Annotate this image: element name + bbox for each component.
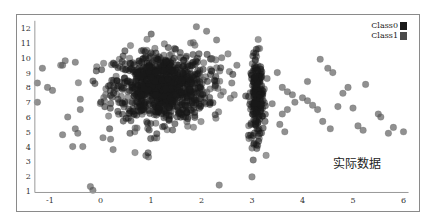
- legend: Class0 Class1: [371, 21, 407, 41]
- x-tick-label: 2: [199, 196, 204, 205]
- legend-label: Class0: [371, 21, 398, 31]
- y-tick-label: 4: [26, 143, 31, 152]
- legend-item-class1: Class1: [371, 31, 407, 41]
- legend-swatch: [400, 32, 407, 40]
- y-tick-label: 3: [26, 157, 31, 166]
- legend-label: Class1: [371, 31, 398, 41]
- chart-annotation: 实际数据: [333, 154, 381, 171]
- y-tick-label: 1: [26, 187, 31, 196]
- y-tick-label: 2: [26, 172, 31, 181]
- chart-frame: -10123456123456789101112 Class0 Class1: [16, 14, 420, 212]
- y-tick-label: 6: [26, 113, 31, 122]
- scatter-plot: -10123456123456789101112: [17, 15, 421, 213]
- x-tick-label: 4: [300, 196, 305, 205]
- x-tick-label: 5: [350, 196, 355, 205]
- x-tick-label: -1: [46, 196, 54, 205]
- x-tick-label: 0: [98, 196, 103, 205]
- y-tick-label: 7: [26, 98, 31, 107]
- legend-item-class0: Class0: [371, 21, 407, 31]
- y-tick-label: 5: [26, 128, 31, 137]
- x-tick-label: 3: [249, 196, 254, 205]
- y-tick-label: 11: [21, 39, 31, 48]
- y-tick-label: 8: [26, 83, 31, 92]
- x-tick-label: 1: [148, 196, 153, 205]
- y-tick-label: 12: [21, 24, 31, 33]
- y-tick-label: 9: [26, 69, 31, 78]
- y-tick-label: 10: [21, 54, 31, 63]
- legend-swatch: [400, 22, 407, 30]
- x-tick-label: 6: [401, 196, 406, 205]
